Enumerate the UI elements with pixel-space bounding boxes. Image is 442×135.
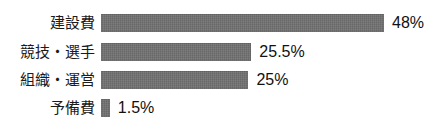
bar-fill bbox=[101, 71, 248, 89]
bar-value-label: 48% bbox=[392, 14, 424, 32]
bar-category-label: 予備費 bbox=[0, 99, 95, 117]
chart-row: 組織・運営 25% bbox=[0, 71, 442, 89]
bar-track bbox=[101, 99, 110, 117]
chart-row: 競技・選手 25.5% bbox=[0, 43, 442, 61]
bar-value-label: 25% bbox=[256, 71, 288, 89]
bar-category-label: 組織・運営 bbox=[0, 71, 95, 89]
bar-track bbox=[101, 14, 384, 32]
chart-row: 建設費 48% bbox=[0, 14, 442, 32]
bar-value-label: 1.5% bbox=[118, 99, 154, 117]
bar-fill bbox=[101, 43, 251, 61]
bar-category-label: 建設費 bbox=[0, 14, 95, 32]
bar-category-label: 競技・選手 bbox=[0, 43, 95, 61]
bar-fill bbox=[101, 99, 110, 117]
chart-row: 予備費 1.5% bbox=[0, 99, 442, 117]
bar-track bbox=[101, 71, 248, 89]
bar-fill bbox=[101, 14, 384, 32]
bar-value-label: 25.5% bbox=[259, 43, 304, 61]
bar-track bbox=[101, 43, 251, 61]
horizontal-bar-chart: 建設費 48% 競技・選手 25.5% 組織・運営 25% 予備費 1.5% bbox=[0, 0, 442, 135]
